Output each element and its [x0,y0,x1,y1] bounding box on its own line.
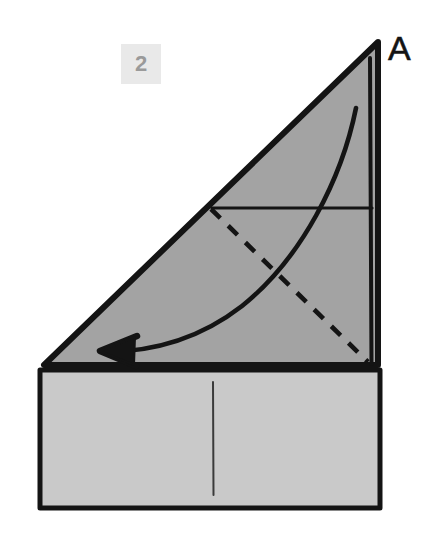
upper-triangular-flap [44,42,378,365]
origami-diagram: 2 A [0,0,447,534]
lower-rectangle-base [40,370,380,508]
corner-label-a: A [388,31,411,65]
origami-figure-svg [0,0,447,534]
step-number-badge: 2 [121,44,161,84]
base-vertical-fold-line [213,382,214,495]
step-number-text: 2 [135,53,147,75]
flap-right-inner-edge [370,58,372,364]
